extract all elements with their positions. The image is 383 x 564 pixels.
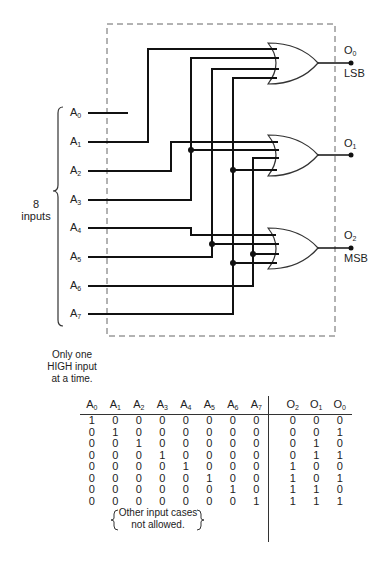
input-cell: 0 bbox=[174, 438, 198, 450]
input-cell: 1 bbox=[80, 415, 104, 427]
input-cell: 0 bbox=[221, 415, 245, 427]
input-cell: 0 bbox=[127, 484, 151, 496]
output-terminal-o0 bbox=[349, 61, 354, 66]
output-cell: 0 bbox=[281, 438, 305, 450]
input-cell: 0 bbox=[151, 461, 175, 473]
output-cell: 0 bbox=[281, 415, 305, 427]
constraint-note: Only oneHIGH inputat a time. bbox=[40, 349, 104, 385]
output-cell: 1 bbox=[328, 496, 352, 508]
input-cell: 1 bbox=[221, 484, 245, 496]
output-cell: 0 bbox=[328, 415, 352, 427]
input-cell: 0 bbox=[104, 484, 128, 496]
output-cell: 1 bbox=[305, 496, 329, 508]
input-cell: 0 bbox=[127, 461, 151, 473]
input-cell: 0 bbox=[174, 415, 198, 427]
input-cell: 0 bbox=[245, 461, 269, 473]
output-cell: 0 bbox=[328, 461, 352, 473]
output-cell: 1 bbox=[305, 484, 329, 496]
input-cell: 0 bbox=[198, 461, 222, 473]
input-label-a0: A0 bbox=[70, 107, 81, 121]
output-label-o1: O1 bbox=[344, 138, 356, 152]
input-cell: 0 bbox=[245, 484, 269, 496]
input-label-a5: A5 bbox=[70, 251, 81, 265]
output-cell: 0 bbox=[305, 415, 329, 427]
table-row: 00000100101 bbox=[80, 473, 352, 485]
output-cell: 0 bbox=[305, 461, 329, 473]
input-cell: 0 bbox=[80, 496, 104, 508]
input-count-label: 8inputs bbox=[18, 198, 54, 222]
table-row: 10000000000 bbox=[80, 415, 352, 427]
input-label-a3: A3 bbox=[70, 194, 81, 208]
input-cell: 0 bbox=[174, 496, 198, 508]
input-label-a6: A6 bbox=[70, 280, 81, 294]
input-cell: 0 bbox=[198, 496, 222, 508]
input-cell: 0 bbox=[151, 496, 175, 508]
msb-label: MSB bbox=[344, 253, 368, 264]
table-row: 00100000010 bbox=[80, 438, 352, 450]
input-cell: 0 bbox=[80, 461, 104, 473]
input-cell: 0 bbox=[245, 438, 269, 450]
input-cell: 0 bbox=[221, 438, 245, 450]
table-row: 00000010110 bbox=[80, 484, 352, 496]
input-cell: 0 bbox=[127, 415, 151, 427]
table-row: 01000000001 bbox=[80, 427, 352, 439]
input-label-a4: A4 bbox=[70, 222, 81, 236]
input-label-a7: A7 bbox=[70, 308, 81, 322]
output-terminal-o1 bbox=[349, 153, 354, 158]
output-cell: 0 bbox=[328, 438, 352, 450]
input-cell: 0 bbox=[127, 496, 151, 508]
input-cell: 0 bbox=[198, 438, 222, 450]
input-cell: 0 bbox=[151, 484, 175, 496]
input-cell: 0 bbox=[174, 484, 198, 496]
input-cell: 0 bbox=[80, 438, 104, 450]
input-cell: 0 bbox=[104, 438, 128, 450]
input-cell: 0 bbox=[221, 496, 245, 508]
table-row: 00001000100 bbox=[80, 461, 352, 473]
output-cell: 1 bbox=[305, 438, 329, 450]
lsb-label: LSB bbox=[344, 68, 365, 79]
output-cell: 1 bbox=[281, 461, 305, 473]
output-label-o2: O2 bbox=[344, 230, 356, 244]
input-cell: 0 bbox=[151, 415, 175, 427]
table-row: 00000001111 bbox=[80, 496, 352, 508]
input-cell: 0 bbox=[198, 484, 222, 496]
input-cell: 0 bbox=[104, 461, 128, 473]
input-cell: 1 bbox=[245, 496, 269, 508]
input-cell: 0 bbox=[151, 438, 175, 450]
input-brace bbox=[53, 107, 63, 326]
output-label-o0: O0 bbox=[344, 45, 356, 59]
input-cell: 0 bbox=[245, 415, 269, 427]
table-row: 00010000011 bbox=[80, 450, 352, 462]
output-cell: 0 bbox=[328, 484, 352, 496]
input-cell: 0 bbox=[198, 415, 222, 427]
output-terminal-o2 bbox=[349, 246, 354, 251]
input-label-a1: A1 bbox=[70, 136, 81, 150]
input-cell: 0 bbox=[104, 496, 128, 508]
input-cell: 0 bbox=[104, 415, 128, 427]
input-cell: 0 bbox=[80, 484, 104, 496]
input-cell: 1 bbox=[127, 438, 151, 450]
output-cell: 1 bbox=[281, 484, 305, 496]
input-cell: 1 bbox=[174, 461, 198, 473]
truth-table-header: A0 A1 A2 A3 A4 A5 A6 A7 O2 O1 O0 bbox=[80, 396, 352, 415]
input-label-a2: A2 bbox=[70, 165, 81, 179]
output-cell: 1 bbox=[281, 496, 305, 508]
other-cases-note: Other input casesnot allowed. bbox=[118, 507, 198, 531]
input-cell: 0 bbox=[221, 461, 245, 473]
